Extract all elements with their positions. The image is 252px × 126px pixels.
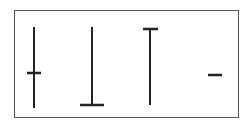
long-legged-doji-shape [27, 27, 41, 108]
doji-diagram [0, 0, 252, 126]
gravestone-doji-shape [143, 29, 158, 105]
dragonfly-doji-shape [80, 27, 104, 105]
